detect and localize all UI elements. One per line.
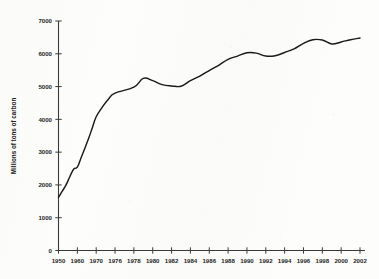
chart-figure: 01000200030004000500060007000 1950196019… bbox=[0, 0, 379, 279]
x-tick-label: 1996 bbox=[297, 257, 311, 264]
x-tick-label: 1978 bbox=[127, 257, 141, 264]
y-tick-label: 4000 bbox=[38, 116, 52, 123]
x-tick-label: 1986 bbox=[202, 257, 216, 264]
x-tick-label: 1990 bbox=[240, 257, 254, 264]
x-tick-label: 1988 bbox=[221, 257, 235, 264]
x-tick-label: 1980 bbox=[146, 257, 160, 264]
data-series-line bbox=[59, 38, 361, 197]
y-tick-label: 2000 bbox=[38, 181, 52, 188]
x-tick-label: 1960 bbox=[71, 257, 85, 264]
x-tick-label: 1992 bbox=[259, 257, 273, 264]
x-tick-label: 2000 bbox=[334, 257, 348, 264]
x-tick-label: 1976 bbox=[108, 257, 122, 264]
line-chart-canvas: 01000200030004000500060007000 1950196019… bbox=[0, 0, 379, 279]
y-tick-label: 3000 bbox=[38, 148, 52, 155]
x-tick-label: 1970 bbox=[89, 257, 103, 264]
y-tick-label: 7000 bbox=[38, 17, 52, 24]
x-axis-ticks: 1950196019701976197819801982198419861988… bbox=[52, 247, 368, 263]
x-tick-label: 2002 bbox=[353, 257, 367, 264]
y-tick-label: 0 bbox=[49, 247, 53, 254]
x-tick-label: 1994 bbox=[278, 257, 292, 264]
y-tick-label: 5000 bbox=[38, 83, 52, 90]
x-tick-label: 1998 bbox=[316, 257, 330, 264]
y-axis-title: Millions of tons of carbon bbox=[10, 98, 17, 175]
x-tick-label: 1982 bbox=[165, 257, 179, 264]
x-tick-label: 1950 bbox=[52, 257, 66, 264]
y-tick-label: 1000 bbox=[38, 214, 52, 221]
y-tick-label: 6000 bbox=[38, 50, 52, 57]
x-tick-label: 1984 bbox=[184, 257, 198, 264]
